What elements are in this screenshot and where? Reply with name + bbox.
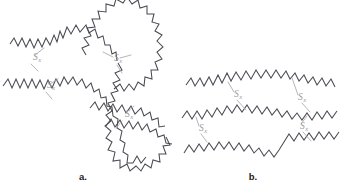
- polymer-chain-a-1: [10, 25, 117, 61]
- panel-a: SxSxSxSx a.: [3, 0, 172, 182]
- panel-b-caption: b.: [249, 171, 257, 182]
- polymer-chain-b-1: [186, 70, 335, 87]
- crosslink-leader-a-4: [46, 92, 52, 99]
- crosslink-label-sx-a-1: Sx: [33, 52, 41, 63]
- crosslink-leader-b-6: [201, 134, 207, 142]
- crosslink-label-sx-b-1: Sx: [234, 89, 242, 100]
- crosslink-leader-b-2: [237, 100, 246, 110]
- panel-b: SxSxSxSx b.: [182, 70, 339, 182]
- crosslink-label-sx-a-3: Sx: [114, 53, 122, 64]
- panel-a-chain-group: [3, 0, 172, 171]
- polymer-network-diagram: SxSxSxSx a. SxSxSxSx b.: [0, 0, 346, 192]
- polymer-chain-b-3: [184, 132, 339, 157]
- panel-b-chain-group: [182, 70, 339, 157]
- crosslink-label-sx-a-4: Sx: [125, 109, 133, 120]
- polymer-chain-a-6: [106, 119, 172, 144]
- polymer-chain-b-2: [182, 105, 337, 120]
- crosslink-leader-a-2: [31, 64, 38, 71]
- crosslink-label-sx-b-4: Sx: [300, 121, 308, 132]
- crosslink-label-sx-b-2: Sx: [298, 92, 306, 103]
- panel-a-caption: a.: [79, 171, 87, 182]
- crosslink-label-sx-b-3: Sx: [199, 123, 207, 134]
- polymer-chain-a-3: [82, 0, 163, 91]
- crosslink-leader-b-4: [302, 103, 310, 112]
- figure-container: SxSxSxSx a. SxSxSxSx b. Vulcanized polym…: [0, 0, 346, 192]
